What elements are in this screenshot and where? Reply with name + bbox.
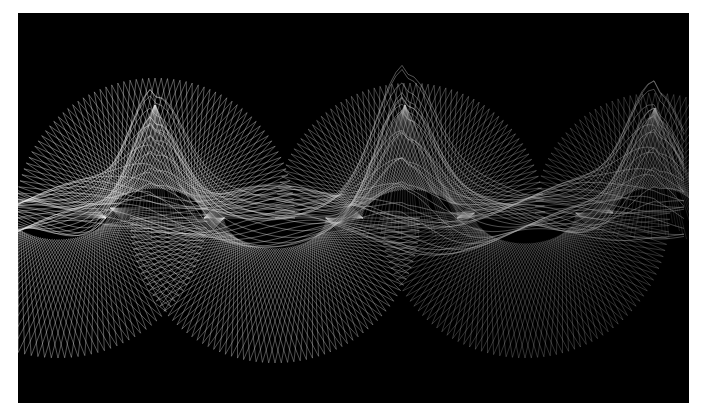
string-art-wave: [18, 13, 689, 403]
artwork-canvas: [18, 13, 689, 403]
